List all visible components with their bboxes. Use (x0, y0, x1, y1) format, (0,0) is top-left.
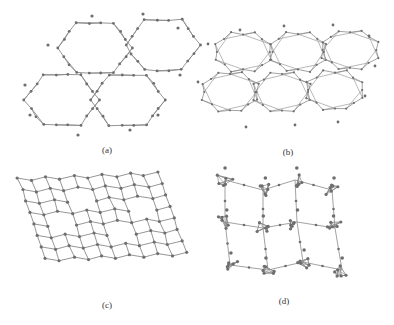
structure-d (0, 0, 394, 325)
caption-d: (d) (279, 296, 290, 306)
